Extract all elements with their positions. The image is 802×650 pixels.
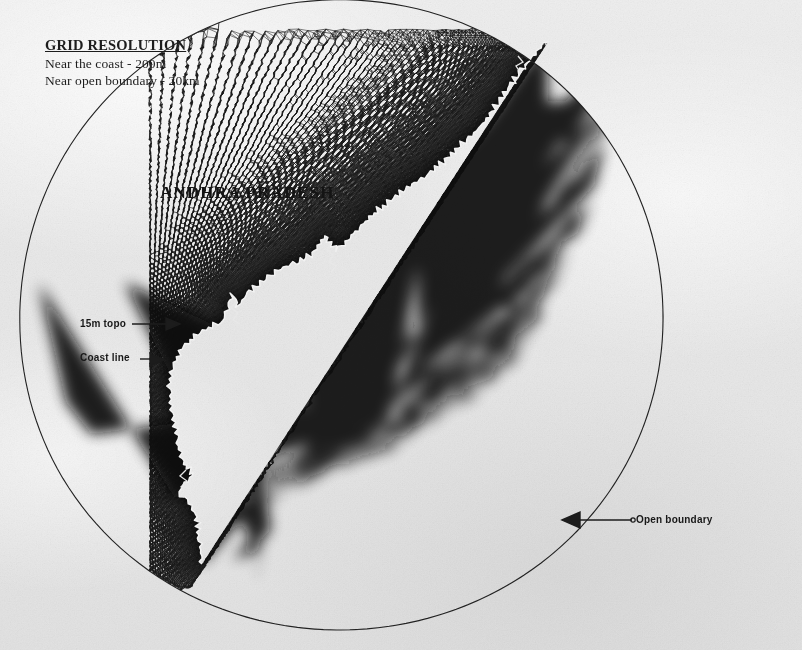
legend-block: GRID RESOLUTION Near the coast - 200m Ne… [45,36,200,89]
callout-open-boundary: Open boundary [636,514,713,525]
callout-coast-line: Coast line [80,352,130,363]
figure-canvas: GRID RESOLUTION Near the coast - 200m Ne… [0,0,802,650]
arrow-open-boundary [562,512,635,528]
arrow-coast-line [140,354,164,366]
legend-title: GRID RESOLUTION [45,36,200,55]
callout-15m-topo: 15m topo [80,318,126,329]
state-label: ANDHRA PRADESH [160,183,335,203]
legend-line-coast: Near the coast - 200m [45,55,200,72]
legend-line-openboundary: Near open boundary - 20km [45,72,200,89]
arrow-15m-topo [132,318,180,330]
